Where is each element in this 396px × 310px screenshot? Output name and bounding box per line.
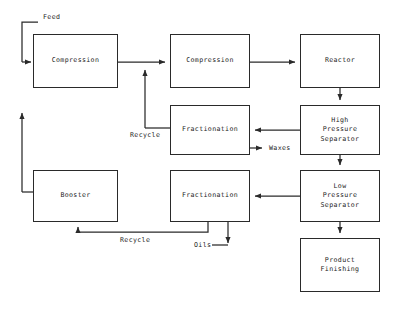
unit-compression-2[interactable]: Compression xyxy=(170,34,250,88)
unit-label: Booster xyxy=(60,191,90,201)
stream-label-feed: Feed xyxy=(43,13,60,21)
stream-label-waxes: Waxes xyxy=(269,144,291,152)
process-flow-diagram: Compression Compression Reactor Fraction… xyxy=(0,0,396,310)
lower-recycle-to-booster xyxy=(78,222,208,232)
stream-label-recycle-upper: Recycle xyxy=(130,131,160,139)
unit-label: Reactor xyxy=(325,56,355,66)
unit-label: Compression xyxy=(186,56,234,66)
unit-label: Fractionation xyxy=(182,125,238,135)
unit-reactor[interactable]: Reactor xyxy=(300,34,380,88)
unit-booster[interactable]: Booster xyxy=(33,170,118,222)
unit-label: Fractionation xyxy=(182,191,238,201)
unit-low-pressure-separator[interactable]: Low Pressure Separator xyxy=(300,170,380,222)
unit-product-finishing[interactable]: Product Finishing xyxy=(300,238,380,292)
unit-label: Low Pressure Separator xyxy=(321,182,360,211)
unit-compression-1[interactable]: Compression xyxy=(33,34,118,88)
stream-label-oils: Oils xyxy=(194,241,211,249)
unit-high-pressure-separator[interactable]: High Pressure Separator xyxy=(300,105,380,155)
unit-label: Product Finishing xyxy=(321,256,360,275)
unit-fractionation-lower[interactable]: Fractionation xyxy=(170,170,250,222)
stream-label-recycle-lower: Recycle xyxy=(120,236,150,244)
unit-fractionation-upper[interactable]: Fractionation xyxy=(170,105,250,155)
unit-label: High Pressure Separator xyxy=(321,116,360,145)
unit-label: Compression xyxy=(52,56,100,66)
